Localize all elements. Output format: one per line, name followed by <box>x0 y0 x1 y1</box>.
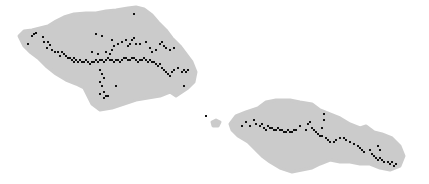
map-point <box>159 63 161 65</box>
map-point <box>137 61 139 63</box>
map-point <box>321 135 323 137</box>
map-point <box>277 127 279 129</box>
map-point <box>75 59 77 61</box>
map-point <box>281 129 283 131</box>
map-point <box>145 41 147 43</box>
map-point <box>113 61 115 63</box>
map-point <box>267 125 269 127</box>
map-point <box>139 59 141 61</box>
map-point <box>167 73 169 75</box>
map-point <box>107 95 109 97</box>
map-point <box>369 149 371 151</box>
map-point <box>383 161 385 163</box>
map-point <box>69 57 71 59</box>
map-point <box>117 59 119 61</box>
map-point <box>279 129 281 131</box>
map-point <box>125 57 127 59</box>
map-point <box>253 119 255 121</box>
map-point <box>163 69 165 71</box>
map-point <box>119 61 121 63</box>
map-point <box>395 163 397 165</box>
map-point <box>99 69 101 71</box>
map-point <box>295 129 297 131</box>
map-point <box>183 69 185 71</box>
map-point <box>171 71 173 73</box>
map-point <box>391 161 393 163</box>
map-point <box>99 93 101 95</box>
map-point <box>109 53 111 55</box>
map-point <box>95 33 97 35</box>
map-point <box>379 157 381 159</box>
map-point <box>46 47 48 49</box>
map-point <box>133 57 135 59</box>
map-point <box>353 143 355 145</box>
map-point <box>151 51 153 53</box>
map-point <box>377 145 379 147</box>
map-point <box>339 137 341 139</box>
map-point <box>389 163 391 165</box>
map-point <box>155 49 157 51</box>
map-point <box>241 125 243 127</box>
map-point <box>311 127 313 129</box>
map-point <box>81 61 83 63</box>
map-point <box>371 153 373 155</box>
map-point <box>323 119 325 121</box>
map-point <box>133 13 135 15</box>
map-point <box>27 43 29 45</box>
map-point <box>323 113 325 115</box>
map-point <box>315 131 317 133</box>
map-point <box>379 149 381 151</box>
map-point <box>133 37 135 39</box>
map-point <box>135 59 137 61</box>
map-point <box>93 61 95 63</box>
map-point <box>321 127 323 129</box>
map-point <box>121 59 123 61</box>
map-point <box>169 49 171 51</box>
map-point <box>151 61 153 63</box>
map-point <box>42 36 44 38</box>
map-point <box>57 51 59 53</box>
map-point <box>329 141 331 143</box>
map-point <box>245 121 247 123</box>
map-point <box>99 81 101 83</box>
map-point <box>165 71 167 73</box>
map-point <box>115 59 117 61</box>
map-point <box>335 139 337 141</box>
map-point <box>107 57 109 59</box>
map-point <box>157 65 159 67</box>
map-point <box>103 77 105 79</box>
map-point <box>73 61 75 63</box>
map-point <box>129 59 131 61</box>
map-point <box>139 43 141 45</box>
map-point <box>343 137 345 139</box>
map-point <box>287 129 289 131</box>
map-point <box>97 61 99 63</box>
map-point <box>61 51 63 53</box>
map-point <box>117 43 119 45</box>
map-point <box>91 61 93 63</box>
map-point <box>127 59 129 61</box>
map-point <box>305 129 307 131</box>
map-point <box>319 135 321 137</box>
map-point <box>289 131 291 133</box>
map-point <box>121 41 123 43</box>
map-point <box>173 47 175 49</box>
map-point <box>103 61 105 63</box>
map-point <box>155 63 157 65</box>
map-point <box>145 59 147 61</box>
map-point <box>105 59 107 61</box>
map-point <box>265 129 267 131</box>
map-point <box>273 129 275 131</box>
map-point <box>135 43 137 45</box>
map-point <box>111 39 113 41</box>
map-point <box>173 69 175 71</box>
map-point <box>131 57 133 59</box>
map-point <box>187 69 189 71</box>
map-point <box>83 61 85 63</box>
map-point <box>185 71 187 73</box>
map-point <box>375 157 377 159</box>
map-point <box>147 61 149 63</box>
map-point <box>349 141 351 143</box>
map-point <box>99 59 101 61</box>
map-point <box>105 51 107 53</box>
